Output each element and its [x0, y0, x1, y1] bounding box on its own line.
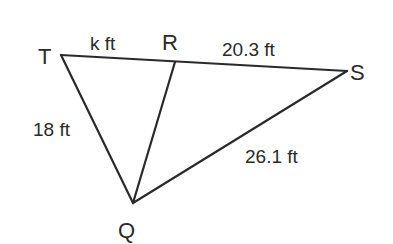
length-label-tr: k ft	[90, 33, 116, 54]
segment-ts	[61, 55, 347, 71]
triangle-diagram: T R S Q k ft 20.3 ft 18 ft 26.1 ft	[0, 0, 393, 244]
length-label-rs: 20.3 ft	[222, 39, 276, 60]
vertex-label-s: S	[350, 60, 365, 85]
vertex-label-q: Q	[118, 218, 135, 243]
vertex-label-t: T	[38, 44, 51, 69]
length-label-sq: 26.1 ft	[245, 146, 299, 167]
segment-sq	[133, 71, 347, 203]
vertex-label-r: R	[162, 30, 178, 55]
length-label-tq: 18 ft	[33, 119, 71, 140]
segment-tq	[61, 55, 133, 203]
